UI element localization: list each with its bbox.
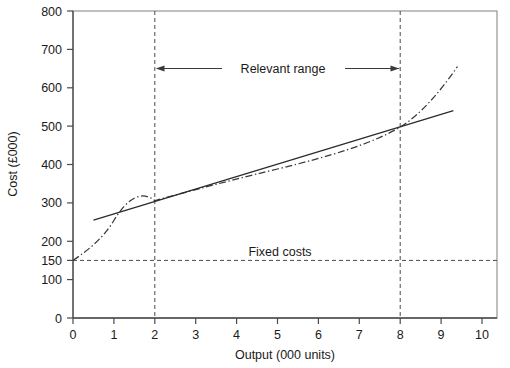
x-tick-label: 4	[233, 328, 240, 342]
y-tick-label: 700	[41, 43, 62, 57]
relevant-range-label: Relevant range	[241, 62, 326, 76]
y-tick-label: 100	[41, 273, 62, 287]
chart-background	[0, 0, 510, 368]
x-tick-label: 9	[438, 328, 445, 342]
x-tick-label: 0	[70, 328, 77, 342]
y-tick-label: 600	[41, 81, 62, 95]
x-tick-label: 5	[274, 328, 281, 342]
y-tick-label: 500	[41, 120, 62, 134]
y-tick-label: 0	[55, 312, 62, 326]
x-tick-label: 7	[356, 328, 363, 342]
y-axis-title: Cost (£000)	[6, 131, 20, 196]
y-tick-label: 400	[41, 158, 62, 172]
y-tick-label: 300	[41, 196, 62, 210]
y-tick-label: 200	[41, 235, 62, 249]
chart-svg: 0 100 150 200 300 400 500 600 700 800 Co…	[0, 0, 510, 368]
x-tick-label: 3	[192, 328, 199, 342]
y-tick-label: 150	[41, 254, 62, 268]
y-tick-label: 800	[41, 5, 62, 19]
x-tick-label: 8	[397, 328, 404, 342]
x-axis-title: Output (000 units)	[235, 348, 335, 362]
fixed-costs-label: Fixed costs	[248, 245, 311, 259]
x-tick-label: 6	[315, 328, 322, 342]
x-tick-label: 10	[475, 328, 489, 342]
y-axis-tick-labels: 0 100 150 200 300 400 500 600 700 800	[41, 5, 62, 326]
cost-behaviour-chart: 0 100 150 200 300 400 500 600 700 800 Co…	[0, 0, 510, 368]
x-tick-label: 1	[110, 328, 117, 342]
x-tick-label: 2	[151, 328, 158, 342]
